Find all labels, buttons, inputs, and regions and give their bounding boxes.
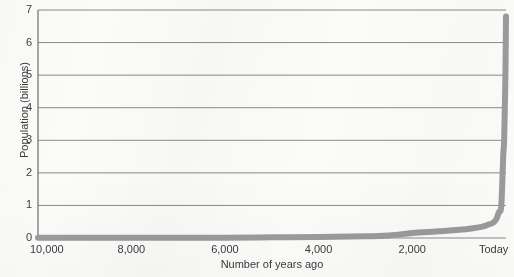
x-tick-label-2000: 2,000 [398, 244, 426, 255]
gridlines-group [38, 10, 506, 238]
x-tick-label-Today: Today [479, 244, 508, 255]
x-tick-label-10000: 10,000 [30, 244, 64, 255]
y-axis-title: Population (billions) [18, 40, 30, 180]
population-growth-chart: 01234567 10,0008,0006,0004,0002,000Today… [0, 0, 514, 277]
series-line-0 [38, 17, 506, 238]
chart-canvas [0, 0, 514, 277]
y-tick-label-1: 1 [4, 199, 32, 210]
x-tick-label-6000: 6,000 [211, 244, 239, 255]
x-tick-label-8000: 8,000 [118, 244, 146, 255]
x-tick-label-4000: 4,000 [305, 244, 333, 255]
y-tick-label-7: 7 [4, 4, 32, 15]
x-axis-title: Number of years ago [38, 258, 506, 270]
data-series-group [38, 17, 506, 238]
y-tick-label-0: 0 [4, 232, 32, 243]
